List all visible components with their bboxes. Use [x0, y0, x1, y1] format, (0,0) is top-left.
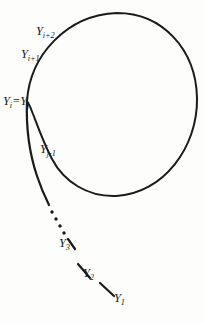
label-collision-point: Yi=Yj: [3, 95, 30, 108]
cycle-curve: [27, 13, 197, 196]
label-y-i-plus-1-subscript: i+1: [28, 54, 40, 63]
label-y-i-plus-2: Yi+2: [36, 25, 55, 38]
tail-ellipsis-dots: [50, 210, 65, 234]
label-y-3-base: Y: [59, 236, 66, 250]
label-y-j-minus-1-subscript: j-1: [47, 149, 56, 158]
label-y-2-base: Y: [83, 266, 90, 280]
label-y-1-base: Y: [114, 291, 121, 305]
label-y-i-base: Y: [3, 94, 10, 108]
label-y-i-plus-2-subscript: i+2: [43, 31, 55, 40]
label-y-i-plus-1-base: Y: [21, 47, 28, 61]
label-y-j-minus-1: Yj-1: [40, 143, 56, 156]
rho-cycle-figure: Yi+2 Yi+1 Yi=Yj Yj-1 Y3 Y2 Y1: [0, 0, 204, 323]
label-y-1: Y1: [114, 292, 125, 305]
label-y-j-minus-1-base: Y: [40, 142, 47, 156]
tail-segment-y1-to-y2: [100, 283, 114, 296]
label-y-3-subscript: 3: [66, 243, 70, 252]
label-y-1-subscript: 1: [121, 298, 125, 307]
label-y-i-plus-2-base: Y: [36, 24, 43, 38]
label-y-j-subscript: j: [27, 101, 29, 110]
label-y-2-subscript: 2: [90, 273, 94, 282]
label-y-i-subscript: i: [10, 101, 12, 110]
label-y-2: Y2: [83, 267, 94, 280]
label-y-3: Y3: [59, 237, 70, 250]
label-y-i-plus-1: Yi+1: [21, 48, 40, 61]
